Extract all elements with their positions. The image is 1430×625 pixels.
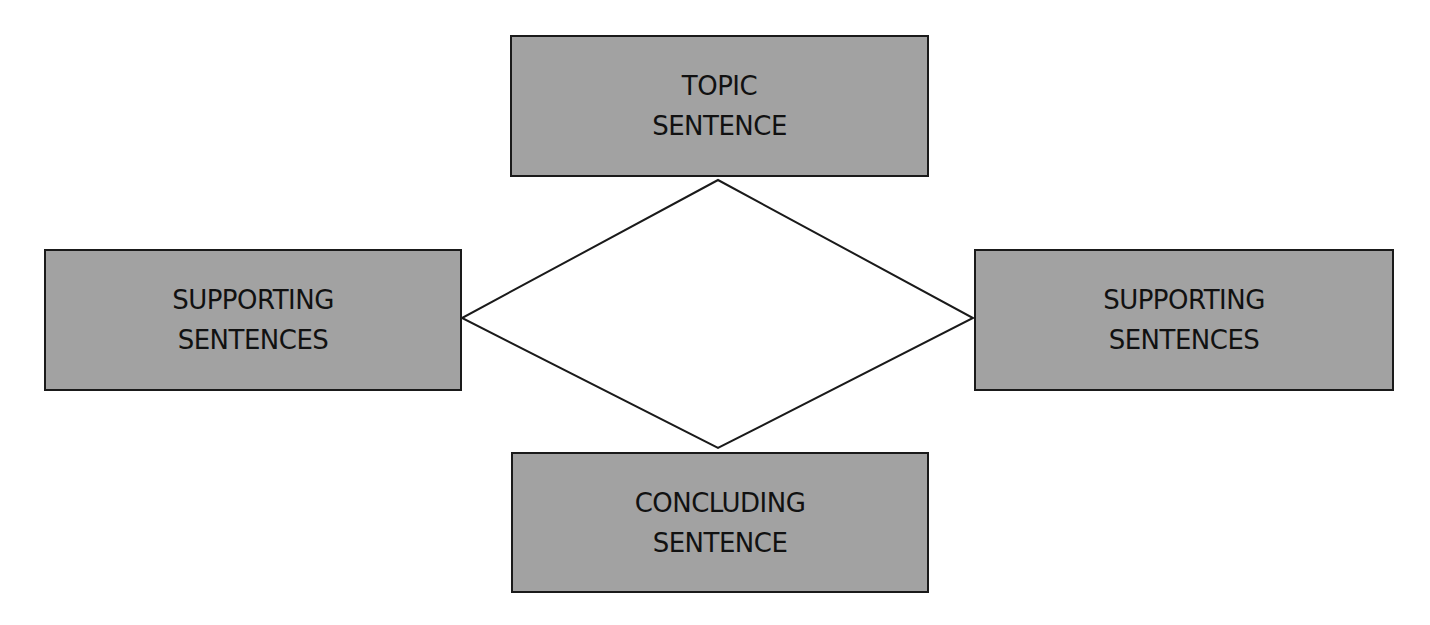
box-label-line: SENTENCES bbox=[178, 320, 329, 360]
box-label-line: SUPPORTING bbox=[1103, 280, 1265, 320]
box-label-line: SENTENCE bbox=[652, 106, 787, 146]
box-label-line: CONCLUDING bbox=[635, 483, 806, 523]
box-label-line: SENTENCES bbox=[1109, 320, 1260, 360]
box-label-line: SUPPORTING bbox=[172, 280, 334, 320]
box-label-line: SENTENCE bbox=[653, 523, 788, 563]
diamond-shape bbox=[462, 180, 973, 448]
topic-sentence-box: TOPIC SENTENCE bbox=[510, 35, 929, 177]
supporting-sentences-right-box: SUPPORTING SENTENCES bbox=[974, 249, 1394, 391]
box-label-line: TOPIC bbox=[682, 66, 757, 106]
paragraph-structure-diagram: TOPIC SENTENCE SUPPORTING SENTENCES SUPP… bbox=[0, 0, 1430, 625]
supporting-sentences-left-box: SUPPORTING SENTENCES bbox=[44, 249, 462, 391]
concluding-sentence-box: CONCLUDING SENTENCE bbox=[511, 452, 929, 593]
